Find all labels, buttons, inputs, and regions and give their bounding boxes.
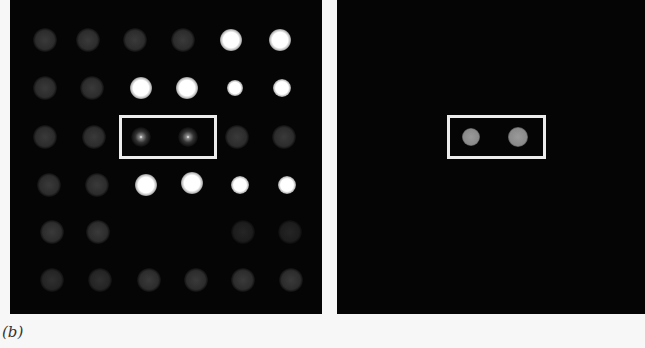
spot bbox=[82, 125, 106, 149]
spot bbox=[225, 125, 249, 149]
spot bbox=[85, 173, 109, 197]
spot bbox=[278, 176, 296, 194]
spot bbox=[184, 268, 208, 292]
spot bbox=[220, 29, 242, 51]
spot bbox=[176, 77, 198, 99]
spot bbox=[135, 174, 157, 196]
spot bbox=[76, 28, 100, 52]
spot bbox=[33, 76, 57, 100]
spot bbox=[278, 220, 302, 244]
spot bbox=[227, 80, 243, 96]
right-image-panel bbox=[337, 0, 645, 314]
spot bbox=[231, 268, 255, 292]
spot bbox=[40, 220, 64, 244]
spot bbox=[181, 172, 203, 194]
spot bbox=[137, 268, 161, 292]
spot bbox=[231, 176, 249, 194]
left-image-panel bbox=[10, 0, 322, 314]
figure-caption: (b) bbox=[2, 323, 23, 341]
spot bbox=[272, 125, 296, 149]
spot bbox=[123, 28, 147, 52]
highlight-box bbox=[447, 115, 546, 159]
spot bbox=[80, 76, 104, 100]
spot bbox=[231, 220, 255, 244]
spot bbox=[279, 268, 303, 292]
highlight-box bbox=[119, 115, 217, 159]
spot bbox=[86, 220, 110, 244]
spot bbox=[37, 173, 61, 197]
spot bbox=[273, 79, 291, 97]
spot bbox=[171, 28, 195, 52]
spot bbox=[33, 125, 57, 149]
spot bbox=[88, 268, 112, 292]
spot bbox=[130, 77, 152, 99]
spot bbox=[33, 28, 57, 52]
spot bbox=[269, 29, 291, 51]
spot bbox=[40, 268, 64, 292]
